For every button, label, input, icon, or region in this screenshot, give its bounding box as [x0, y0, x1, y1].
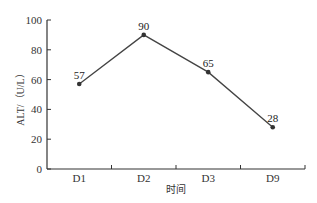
data-label: 65 — [203, 57, 215, 69]
y-axis-title: ALT/（U/L） — [15, 68, 26, 125]
y-tick-label: 0 — [37, 163, 43, 175]
data-label: 28 — [267, 112, 279, 124]
y-tick-label: 20 — [31, 133, 43, 145]
x-tick-label: D3 — [202, 172, 216, 184]
data-point-marker — [141, 33, 146, 38]
x-tick-label: D9 — [266, 172, 280, 184]
data-point-marker — [270, 125, 275, 130]
series-line — [79, 35, 273, 127]
line-chart: 020406080100 D1D2D3D9 57906528 ALT/（U/L）… — [0, 0, 317, 203]
y-tick-label: 40 — [31, 103, 43, 115]
y-tick-label: 60 — [31, 74, 43, 86]
data-label: 57 — [74, 69, 86, 81]
x-tick-label: D1 — [73, 172, 86, 184]
x-axis-title: 时间 — [166, 183, 186, 195]
x-tick-label: D2 — [137, 172, 150, 184]
data-point-marker — [77, 82, 82, 87]
y-tick-label: 80 — [31, 44, 43, 56]
y-axis: 020406080100 — [26, 14, 52, 175]
data-label: 90 — [138, 20, 150, 32]
x-axis: D1D2D3D9 — [47, 165, 305, 184]
data-series: 57906528 — [74, 20, 279, 130]
y-tick-label: 100 — [26, 14, 43, 26]
data-point-marker — [206, 70, 211, 75]
